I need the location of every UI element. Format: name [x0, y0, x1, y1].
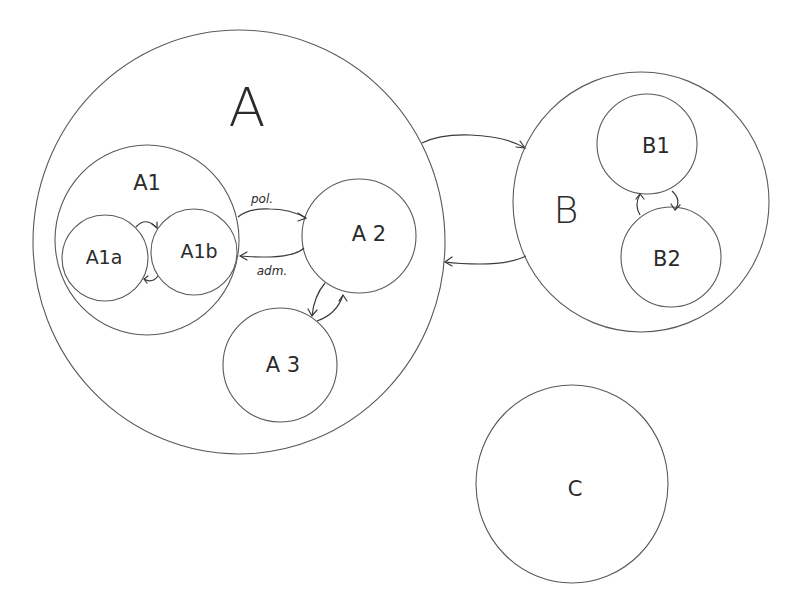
edge-A2-to-A3 [308, 283, 325, 316]
edge-label-adm: adm. [257, 264, 287, 278]
set-A1: A1 A1a A1b [55, 145, 239, 335]
circle-B [513, 72, 769, 332]
edge-A1-to-A2: pol. [238, 192, 306, 221]
edge-label-pol: pol. [250, 192, 273, 206]
set-C: C [476, 385, 668, 583]
arrowhead-icon [339, 295, 347, 301]
label-B2: B2 [653, 247, 681, 271]
label-A1: A1 [133, 171, 161, 195]
set-A: A A1 A1a A1b A 2 A 3 [33, 30, 445, 454]
edge-A2-to-A1: adm. [240, 248, 304, 278]
label-A: A [229, 76, 266, 139]
label-A1a: A1a [86, 246, 123, 268]
label-B: B [554, 188, 579, 232]
label-C: C [568, 477, 583, 501]
edge-A1a-to-A1b [136, 222, 157, 228]
label-A2: A 2 [352, 222, 386, 246]
diagram-canvas: A A1 A1a A1b A 2 A 3 [0, 0, 791, 614]
label-A1b: A1b [180, 240, 217, 262]
label-B1: B1 [642, 134, 670, 158]
edge-B2-to-B1 [636, 194, 644, 215]
arrowhead-icon [445, 257, 452, 266]
edge-A3-to-A2 [317, 295, 347, 321]
label-A3: A 3 [266, 353, 300, 377]
arrowhead-icon [636, 194, 644, 199]
edge-A-to-B [422, 135, 525, 148]
edge-B-to-A [445, 256, 526, 266]
edge-A1b-to-A1a [144, 276, 158, 283]
set-B: B B1 B2 [513, 72, 769, 332]
